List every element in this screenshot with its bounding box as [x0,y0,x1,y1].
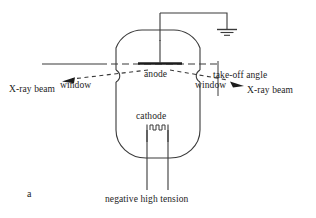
vacuum-tube-outline [116,30,200,158]
label-window-left: window [60,81,91,91]
label-xray-beam-left: X-ray beam [9,85,55,95]
cathode-assembly [147,125,168,143]
xray-tube-diagram [0,0,316,218]
ground-connection-wire [160,13,227,29]
label-window-right: window [195,81,226,91]
label-negative-high-tension: negative high tension [105,195,188,205]
label-cathode: cathode [136,112,166,122]
figure-panel: X-ray beam window anode take-off angle w… [0,0,316,218]
panel-label: a [27,189,32,199]
anode-bar [138,13,182,64]
arrow-right-icon [230,82,244,88]
filament-coil-icon [150,125,165,130]
label-xray-beam-right: X-ray beam [247,86,293,96]
label-anode: anode [144,70,167,80]
negative-high-tension-leads [147,130,168,190]
ground-icon [217,30,237,36]
